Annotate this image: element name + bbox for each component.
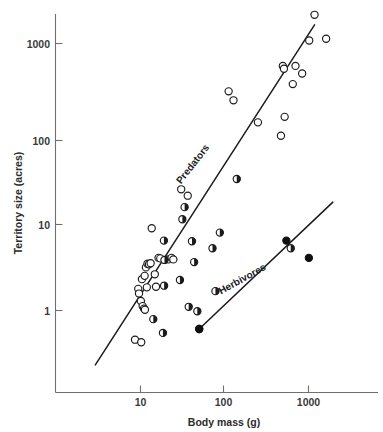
- data-point-solid: [283, 237, 290, 244]
- data-point-half: [176, 276, 183, 283]
- x-tick-label-1000: 1000: [297, 396, 321, 408]
- data-point-half: [161, 282, 168, 289]
- data-point-open: [138, 339, 145, 346]
- data-point-open: [141, 272, 148, 279]
- data-point-open: [292, 62, 299, 69]
- y-axis-title: Territory size (acres): [12, 152, 24, 255]
- data-point-half: [160, 237, 167, 244]
- y-tick-label-1: 1: [44, 305, 50, 317]
- y-tick-label-1000: 1000: [27, 38, 51, 50]
- series-label-predators: Predators: [174, 142, 212, 186]
- data-point-solid: [305, 254, 312, 261]
- x-axis-title: Body mass (g): [188, 416, 260, 428]
- data-point-half: [287, 245, 294, 252]
- data-point-half: [161, 256, 168, 263]
- data-point-half: [185, 303, 192, 310]
- data-point-open: [135, 290, 142, 297]
- y-axis-ticks: [56, 44, 63, 311]
- data-point-half: [209, 245, 216, 252]
- data-point-open: [281, 113, 288, 120]
- data-point-open: [143, 284, 150, 291]
- data-point-open: [230, 97, 237, 104]
- data-point-half: [216, 229, 223, 236]
- data-point-open: [178, 186, 185, 193]
- x-tick-label-10: 10: [135, 396, 147, 408]
- data-point-solid: [196, 325, 203, 332]
- data-point-markers: [131, 11, 329, 346]
- data-point-half: [181, 204, 188, 211]
- data-point-open: [289, 80, 296, 87]
- data-point-open: [254, 119, 261, 126]
- data-point-half: [150, 316, 157, 323]
- data-point-open: [277, 132, 284, 139]
- data-point-open: [299, 70, 306, 77]
- fit-line-predators: [95, 25, 314, 365]
- data-point-half: [159, 329, 166, 336]
- scatter-plot-svg: 1000 100 10 1 10 100 1000 Body mass (g) …: [0, 0, 383, 432]
- data-point-open: [152, 283, 159, 290]
- series-inline-labels: PredatorsHerbivores: [174, 142, 268, 296]
- y-tick-label-10: 10: [38, 219, 50, 231]
- data-point-half: [179, 216, 186, 223]
- plot-axes: [56, 14, 379, 393]
- data-point-open: [322, 35, 329, 42]
- regression-lines: [95, 25, 333, 365]
- data-point-open: [170, 256, 177, 263]
- y-axis-tick-labels: 1000 100 10 1: [27, 38, 51, 317]
- x-axis-ticks: [141, 386, 309, 393]
- data-point-open: [311, 11, 318, 18]
- fit-line-herbivores: [199, 202, 333, 329]
- x-axis-tick-labels: 10 100 1000: [135, 396, 321, 408]
- x-tick-label-100: 100: [215, 396, 233, 408]
- data-point-half: [233, 175, 240, 182]
- data-point-open: [148, 225, 155, 232]
- data-point-half: [188, 238, 195, 245]
- data-point-open: [184, 192, 191, 199]
- series-label-herbivores: Herbivores: [217, 261, 268, 296]
- territory-size-vs-body-mass-chart: 1000 100 10 1 10 100 1000 Body mass (g) …: [0, 0, 383, 432]
- data-point-open: [151, 271, 158, 278]
- data-point-half: [194, 308, 201, 315]
- data-point-open: [225, 88, 232, 95]
- data-point-open: [147, 260, 154, 267]
- data-point-open: [141, 306, 148, 313]
- y-tick-label-100: 100: [32, 135, 50, 147]
- data-point-open: [280, 65, 287, 72]
- data-point-half: [191, 258, 198, 265]
- data-point-open: [306, 37, 313, 44]
